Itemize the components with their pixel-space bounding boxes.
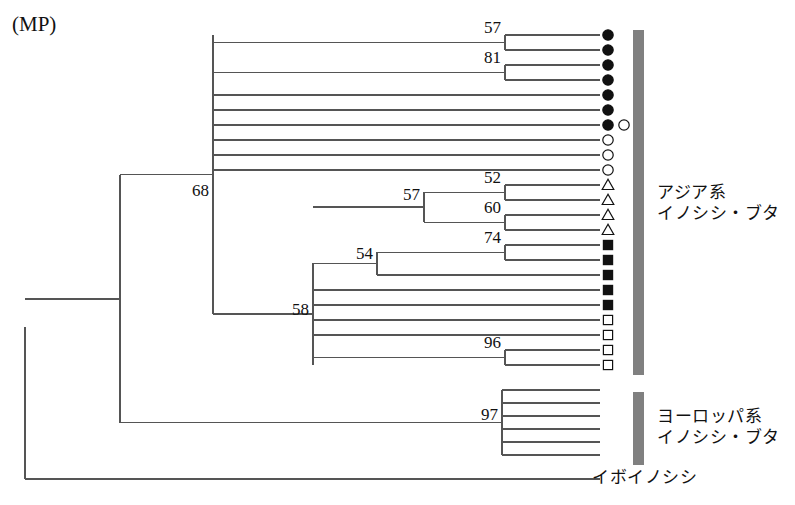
group-label-asian: アジア系 イノシシ・ブタ: [657, 182, 780, 224]
tip-marker-open-square: [603, 315, 612, 324]
tip-marker-filled-square: [603, 240, 612, 249]
branch-layer: [25, 35, 600, 479]
group-bar-asian: [633, 30, 644, 375]
bootstrap-value-n68: 68: [192, 181, 209, 200]
bootstrap-value-n81: 81: [484, 48, 501, 67]
tip-marker-filled-circle: [603, 30, 613, 40]
tip-marker-filled-circle: [603, 90, 613, 100]
tip-marker-open-square: [603, 345, 612, 354]
tip-marker-filled-circle: [603, 75, 613, 85]
tip-marker-open-square: [603, 360, 612, 369]
tip-marker-filled-circle: [603, 45, 613, 55]
tip-marker-extra-open-circle: [619, 120, 629, 130]
bootstrap-layer: 5781526057745496586897: [192, 18, 502, 424]
tip-marker-filled-circle: [603, 120, 613, 130]
bootstrap-value-n96: 96: [484, 333, 501, 352]
outgroup-label-warthog: イボイノシシ: [592, 469, 697, 486]
tip-marker-open-circle: [603, 150, 613, 160]
bootstrap-value-n60: 60: [484, 198, 501, 217]
tip-marker-filled-square: [603, 300, 612, 309]
group-label-european-line2: イノシシ・ブタ: [657, 427, 780, 448]
tip-marker-open-triangle: [602, 179, 614, 189]
tip-marker-open-triangle: [602, 224, 614, 234]
tip-marker-filled-circle: [603, 60, 613, 70]
bootstrap-value-n74: 74: [484, 228, 502, 247]
tip-marker-open-circle: [603, 165, 613, 175]
marker-layer: [602, 30, 644, 465]
bootstrap-value-n58: 58: [292, 300, 309, 319]
group-bar-european: [633, 392, 644, 465]
bootstrap-value-n57a: 57: [484, 18, 502, 37]
tip-marker-open-circle: [603, 135, 613, 145]
bootstrap-value-n54: 54: [356, 244, 374, 263]
tip-marker-open-triangle: [602, 209, 614, 219]
group-label-european: ヨーロッパ系 イノシシ・ブタ: [657, 406, 780, 448]
bootstrap-value-n52: 52: [484, 168, 501, 187]
group-label-asian-line1: アジア系: [657, 182, 726, 202]
group-label-asian-line2: イノシシ・ブタ: [657, 203, 780, 224]
tip-marker-filled-square: [603, 285, 612, 294]
tip-marker-open-square: [603, 330, 612, 339]
phylogenetic-tree-figure: (MP) 5781526057745496586897 アジア系 イノシシ・ブタ…: [0, 0, 795, 505]
tip-marker-filled-circle: [603, 105, 613, 115]
group-label-european-line1: ヨーロッパ系: [657, 406, 762, 426]
bootstrap-value-n97: 97: [481, 405, 499, 424]
bootstrap-value-n57b: 57: [403, 185, 421, 204]
tip-marker-filled-square: [603, 255, 612, 264]
tip-marker-open-triangle: [602, 194, 614, 204]
tip-marker-filled-square: [603, 270, 612, 279]
